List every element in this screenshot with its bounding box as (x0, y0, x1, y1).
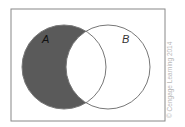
copyright-credit: © Cengage Learning 2014 (166, 42, 173, 118)
set-b-label: B (122, 33, 129, 45)
venn-diagram: A B (0, 0, 185, 127)
set-a-label: A (41, 33, 49, 45)
